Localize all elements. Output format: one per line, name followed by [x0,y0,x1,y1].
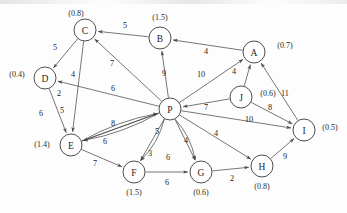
graph-edge [212,167,248,171]
graph-canvas: 545476910478111044526867536629 C(0.8)B(1… [0,0,347,213]
graph-edge [73,41,84,131]
edge-cost-label: 4 [204,47,208,56]
node-weight-label: (0.8) [68,9,84,18]
node-label: D [42,74,49,84]
edge-cost-label: 7 [93,159,97,168]
edge-cost-label: 6 [103,137,107,146]
node-weight-label: (1.5) [152,13,168,22]
node-label: J [239,93,243,103]
edge-cost-label: 8 [268,103,272,112]
node-label: P [167,105,172,115]
node-weight-label: (0.6) [260,89,276,98]
node-weight-label: (0.4) [9,70,25,79]
edge-cost-label: 4 [71,70,75,79]
edge-cost-label: 5 [60,106,64,115]
graph-figure: 545476910478111044526867536629 C(0.8)B(1… [0,0,347,213]
node-layer: C(0.8)B(1.5)A(0.7)D(0.4)J(0.6)PI(0.5)E(1… [9,9,338,197]
edge-cost-label: 4 [214,129,218,138]
graph-edge [53,39,77,68]
node-weight-label: (0.6) [193,188,209,197]
edge-cost-label: 10 [197,70,205,79]
edge-cost-label: 2 [230,174,234,183]
edge-cost-label: 2 [57,89,61,98]
edge-cost-label: 4 [184,136,188,145]
edge-cost-label: 8 [111,119,115,128]
node-weight-label: (1.5) [126,188,142,197]
edge-cost-label: 6 [111,84,115,93]
edge-cost-label: 7 [204,103,208,112]
edge-cost-label: 9 [283,152,287,161]
graph-edge [95,39,162,101]
graph-edge [98,31,148,36]
edge-cost-label: 5 [123,21,127,30]
edge-cost-label: 5 [155,127,159,136]
node-label: B [157,34,163,44]
edge-cost-label: 10 [245,115,253,124]
graph-edge [141,119,165,161]
edge-cost-label: 6 [165,178,169,187]
edge-cost-label: 6 [166,153,170,162]
node-label: C [82,26,88,36]
node-label: I [302,126,305,136]
node-weight-label: (0.7) [277,41,293,50]
edge-cost-label: 7 [110,59,114,68]
node-weight-label: (0.8) [254,182,270,191]
graph-edge [181,111,291,128]
node-label: G [198,168,205,178]
node-label: H [259,162,266,172]
edge-cost-label: 11 [281,89,289,98]
graph-edge [82,150,122,167]
node-weight-label: (1.4) [34,140,50,149]
edge-cost-label: 9 [162,69,166,78]
node-label: F [131,168,136,178]
edge-cost-label: 5 [53,43,57,52]
edge-cost-label: 6 [39,109,43,118]
node-label: E [68,141,74,151]
graph-edge [244,65,250,86]
graph-edge [82,114,158,142]
edge-cost-label: 4 [232,67,236,76]
edge-cost-label: 3 [148,149,152,158]
node-weight-label: (0.5) [322,123,338,132]
node-label: A [251,48,258,58]
